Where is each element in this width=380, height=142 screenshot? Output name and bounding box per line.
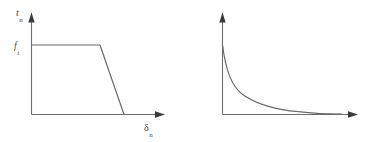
figure-container: tn ft δn tn ft δn	[0, 0, 380, 142]
right-x-axis-arrow-icon	[348, 111, 358, 118]
left-y-tick-label: ft	[14, 36, 19, 55]
right-y-axis-arrow-icon	[219, 13, 225, 23]
left-x-axis-subscript: n	[149, 131, 153, 139]
left-y-axis-label: tn	[16, 3, 22, 22]
panel-exponential-traction-separation-law: tn ft δn	[190, 0, 380, 142]
right-plot-svg	[190, 0, 380, 142]
left-softening-curve	[32, 45, 125, 115]
left-x-axis-arrow-icon	[155, 111, 165, 118]
right-softening-curve	[223, 45, 343, 114]
left-x-axis-label: δn	[144, 118, 152, 137]
left-ft-subscript: t	[17, 49, 19, 57]
left-x-axis-symbol: δ	[144, 122, 149, 133]
left-y-axis-arrow-icon	[28, 13, 34, 23]
panel-bilinear-traction-separation-law: tn ft δn	[0, 0, 190, 142]
left-y-axis-subscript: n	[19, 16, 23, 24]
left-plot-svg	[0, 0, 190, 142]
